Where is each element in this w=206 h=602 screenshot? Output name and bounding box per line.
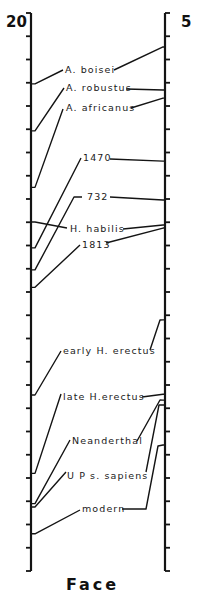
series-left-segment <box>31 394 61 473</box>
series-lines: A. boiseiA. robustusA. africanus1470732H… <box>31 47 165 534</box>
series-1813: 1813 <box>31 228 165 287</box>
right-axis-top-label: 5 <box>181 13 191 31</box>
series-left-segment <box>31 158 81 248</box>
series-right-segment <box>126 89 165 90</box>
series-left-segment <box>31 222 67 228</box>
left-axis-top-label: 20 <box>6 13 27 31</box>
series-label: Neanderthal <box>72 435 143 446</box>
series-left-segment <box>31 109 63 187</box>
series-a-africanus: A. africanus <box>31 98 165 187</box>
series-label: 1813 <box>82 239 111 250</box>
series-right-segment <box>142 394 165 397</box>
series-label: 1470 <box>83 152 112 163</box>
face-slope-chart: A. boiseiA. robustusA. africanus1470732H… <box>0 0 206 602</box>
series-label: early H. erectus <box>63 345 156 356</box>
series-label: H. habilis <box>70 223 125 234</box>
series-label: 732 <box>87 191 108 202</box>
series-right-segment <box>123 225 165 229</box>
series-label: modern <box>82 503 125 514</box>
series-late-h-erectus: late H.erectus <box>31 391 165 473</box>
axes <box>26 13 170 571</box>
series-a-boisei: A. boisei <box>31 47 165 84</box>
series-left-segment <box>31 88 64 131</box>
chart-title: Face <box>66 575 119 594</box>
series-label: A. robustus <box>66 82 132 93</box>
series-right-segment <box>110 159 165 161</box>
series-label: A. boisei <box>65 64 115 75</box>
series-label: A. africanus <box>66 102 135 113</box>
series-right-segment <box>131 98 165 108</box>
series-label: U P s. sapiens <box>67 470 148 481</box>
series-right-segment <box>110 197 165 200</box>
series-early-h-erectus: early H. erectus <box>31 320 165 395</box>
series-u-p-s-sapiens: U P s. sapiens <box>31 405 165 507</box>
series-left-segment <box>31 70 63 84</box>
series-label: late H.erectus <box>63 391 145 402</box>
series-right-segment <box>114 47 165 70</box>
series-left-segment <box>31 351 61 395</box>
series-left-segment <box>31 510 80 534</box>
series-left-segment <box>31 440 70 504</box>
series-left-segment <box>31 245 80 287</box>
